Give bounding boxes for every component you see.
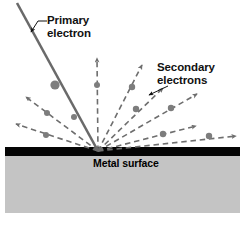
secondary-electron-dot-right-2 — [133, 106, 139, 112]
secondary-electrons-leader-line — [149, 86, 168, 95]
secondary-electron-dot-right-4 — [160, 131, 166, 137]
primary-electron-dot-large — [50, 80, 59, 89]
metal-surface-label: Metal surface — [93, 158, 159, 170]
secondary-electron-emission-diagram — [0, 0, 247, 229]
secondary-electrons-label: Secondary electrons — [157, 61, 215, 87]
secondary-electron-dot-vertical — [94, 82, 100, 88]
electron-dots — [43, 80, 212, 139]
diagram-canvas: Primary electron Secondary electrons Met… — [0, 0, 247, 229]
ray-vertical — [97, 58, 98, 151]
secondary-electron-dot-right-5 — [206, 133, 212, 139]
secondary-electron-dot-left-2 — [43, 132, 49, 138]
secondary-electron-dot-right-1 — [129, 84, 135, 90]
secondary-electron-dot-left-1 — [44, 110, 50, 116]
ray-left-1 — [26, 97, 98, 151]
primary-electron-dot-small — [71, 114, 77, 120]
metal-surface-bar — [5, 147, 240, 156]
ray-right-2 — [98, 88, 163, 151]
primary-electron-label: Primary electron — [47, 14, 91, 40]
secondary-electron-dot-right-3 — [168, 105, 174, 111]
